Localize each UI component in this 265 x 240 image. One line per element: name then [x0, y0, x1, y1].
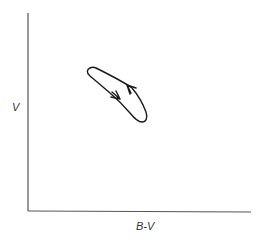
x-axis — [28, 211, 251, 212]
y-axis-label: V — [12, 102, 19, 113]
arrow-up-left-icon — [127, 85, 136, 94]
color-magnitude-diagram — [0, 0, 265, 240]
x-axis-label: B-V — [136, 221, 154, 232]
